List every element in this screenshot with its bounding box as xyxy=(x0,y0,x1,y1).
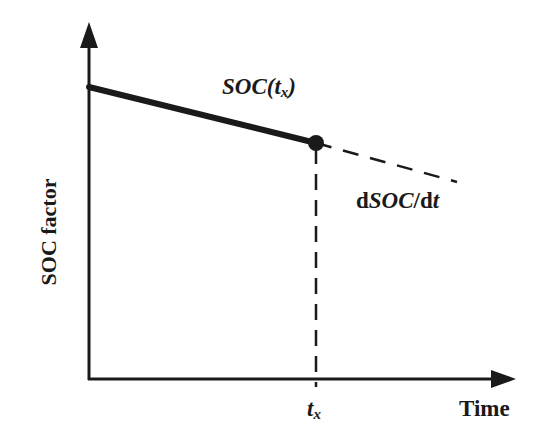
dsoc-t: t xyxy=(433,188,439,213)
soc-tx-close: ) xyxy=(288,74,296,99)
soc-tx-annotation: SOC(tx) xyxy=(222,74,296,101)
dsoc-mid: SOC xyxy=(369,188,414,213)
x-axis-label: Time xyxy=(459,396,510,422)
tx-subscript: x xyxy=(313,406,321,422)
x-axis-arrow-icon xyxy=(491,370,516,388)
y-axis-label: SOC factor xyxy=(36,179,62,286)
diagram-canvas xyxy=(0,0,542,440)
y-axis-arrow-icon xyxy=(80,22,98,48)
dsoc-dt-annotation: dSOC/dt xyxy=(356,188,439,214)
soc-tx-point-marker xyxy=(308,135,324,151)
dsoc-dt-dashed-line xyxy=(316,143,457,182)
dsoc-prefix: d xyxy=(356,188,369,213)
soc-tx-main: SOC(t xyxy=(222,74,281,99)
tx-tick-label: tx xyxy=(307,396,321,423)
dsoc-slash: /d xyxy=(414,188,433,213)
